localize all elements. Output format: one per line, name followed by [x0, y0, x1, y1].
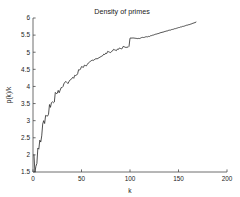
density-of-primes-chart: Density of primes 1.522.533.544.555.56 0…: [0, 0, 240, 197]
chart-title: Density of primes: [94, 7, 150, 16]
y-tick-label: 3.5: [21, 100, 30, 107]
x-tick-label: 200: [222, 175, 233, 182]
y-tick-label: 4: [26, 83, 30, 90]
y-tick-label: 1.5: [21, 168, 30, 175]
series-line-pk-over-k: [34, 22, 196, 172]
x-tick-label: 50: [78, 175, 86, 182]
y-tick-label: 5.5: [21, 31, 30, 38]
y-tick-label: 5: [26, 49, 30, 56]
y-tick-label: 2: [26, 151, 30, 158]
x-axis-tick-group: 050100150200: [31, 169, 233, 181]
y-axis-title: p(k)/k: [5, 86, 13, 103]
y-axis-tick-group: 1.522.533.544.555.56: [21, 14, 35, 175]
figure-panel: Density of primes 1.522.533.544.555.56 0…: [0, 0, 240, 197]
y-tick-label: 6: [26, 14, 30, 21]
x-axis-title: k: [128, 187, 132, 194]
y-tick-label: 4.5: [21, 66, 30, 73]
x-tick-label: 150: [173, 175, 184, 182]
y-tick-label: 3: [26, 117, 30, 124]
y-tick-label: 2.5: [21, 134, 30, 141]
x-tick-label: 0: [31, 175, 35, 182]
x-tick-label: 100: [125, 175, 136, 182]
